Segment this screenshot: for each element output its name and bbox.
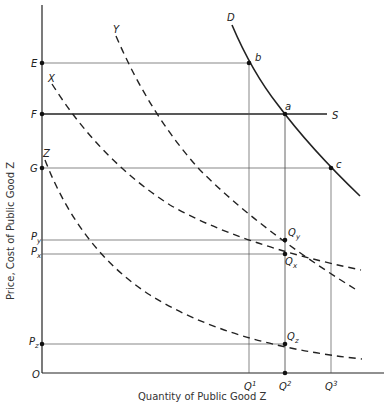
dot-E xyxy=(40,61,45,66)
label-b: b xyxy=(255,52,261,63)
label-Py: Py xyxy=(31,231,42,245)
x-axis-title: Quantity of Public Good Z xyxy=(138,391,266,402)
label-origin: O xyxy=(32,369,40,380)
label-S: S xyxy=(332,110,339,121)
public-good-diagram: E F G Py Px Pz O Q1 Q2 Q3 D S Y X Z b a … xyxy=(0,0,388,403)
y-axis-title: Price, Cost of Public Good Z xyxy=(5,162,16,300)
label-Px: Px xyxy=(31,246,42,260)
demand-curve-D xyxy=(232,25,360,196)
point-Qz xyxy=(283,342,288,347)
label-Q3: Q3 xyxy=(325,380,337,392)
dot-F xyxy=(40,112,45,117)
label-Y: Y xyxy=(113,24,120,35)
label-F: F xyxy=(31,109,37,120)
dot-Q2-axis xyxy=(283,371,288,376)
dot-G xyxy=(40,166,45,171)
label-a: a xyxy=(285,101,291,112)
label-c: c xyxy=(336,159,342,170)
point-b xyxy=(247,61,252,66)
point-c xyxy=(329,166,334,171)
curve-Y xyxy=(116,36,355,289)
label-Q2: Q2 xyxy=(279,380,292,392)
point-Qy xyxy=(283,238,288,243)
label-Z: Z xyxy=(42,148,51,159)
dot-Pz xyxy=(40,342,45,347)
label-E: E xyxy=(31,58,38,69)
label-Pz: Pz xyxy=(29,336,39,350)
label-Qz: Qz xyxy=(287,331,299,345)
label-X: X xyxy=(47,73,56,84)
label-G: G xyxy=(30,163,38,174)
label-Qx: Qx xyxy=(285,256,298,270)
label-Qy: Qy xyxy=(288,227,301,241)
label-D: D xyxy=(227,12,235,23)
point-a xyxy=(283,112,288,117)
